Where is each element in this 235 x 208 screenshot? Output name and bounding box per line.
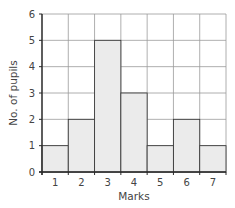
x-tick-label: 5 [157, 177, 163, 188]
y-tick-label: 6 [29, 9, 35, 20]
y-tick-label: 2 [29, 114, 35, 125]
x-axis-label: Marks [118, 190, 149, 202]
histogram-chart: 0123456 1234567 Marks No. of pupils [0, 0, 235, 208]
x-tick-label: 4 [131, 177, 137, 188]
y-tick-label: 4 [29, 61, 35, 72]
histogram-bar [68, 119, 94, 172]
y-tick-label: 0 [29, 167, 35, 178]
histogram-bar [147, 146, 173, 172]
bars [42, 40, 226, 172]
y-tick-label: 5 [29, 35, 35, 46]
x-tick-label: 7 [210, 177, 216, 188]
x-tick-label: 6 [183, 177, 189, 188]
x-tick-label: 2 [78, 177, 84, 188]
x-tick-labels: 1234567 [52, 177, 216, 188]
y-tick-labels: 0123456 [29, 9, 35, 178]
y-tick-label: 3 [29, 88, 35, 99]
histogram-bar [121, 93, 147, 172]
x-tick-label: 1 [52, 177, 58, 188]
histogram-bar [42, 146, 68, 172]
x-tick-label: 3 [105, 177, 111, 188]
histogram-bar [95, 40, 121, 172]
y-axis-label: No. of pupils [7, 60, 19, 126]
histogram-bar [173, 119, 199, 172]
histogram-bar [200, 146, 226, 172]
y-tick-label: 1 [29, 140, 35, 151]
